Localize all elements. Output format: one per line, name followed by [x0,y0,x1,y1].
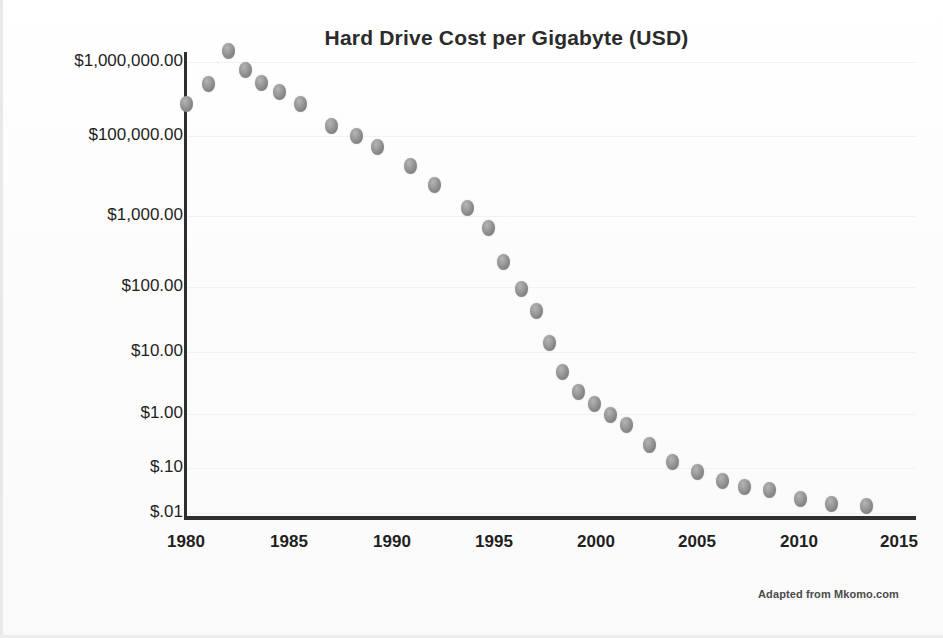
data-point [202,76,215,92]
data-point [825,496,838,512]
attribution-text: Adapted from Mkomo.com [758,588,899,600]
chart-figure: Hard Drive Cost per Gigabyte (USD) $1,00… [0,0,943,638]
data-point [794,491,807,507]
data-point [325,118,338,134]
data-point [273,84,286,100]
data-point [666,454,679,470]
gridline [187,513,916,514]
data-point [691,464,704,480]
data-point [620,417,633,433]
y-tick-label: $10.00 [13,341,183,361]
x-tick-label: 1990 [352,532,432,552]
data-point [543,335,556,351]
gridline [187,414,916,415]
data-point [239,62,252,78]
x-axis-line [184,516,916,520]
gridline [187,216,916,217]
gridline [187,287,916,288]
y-tick-label: $.01 [13,502,183,522]
gridline [187,468,916,469]
data-point [588,396,601,412]
gridline [187,62,916,63]
data-point [255,75,268,91]
data-point [572,384,585,400]
data-point [180,96,193,112]
data-point [350,128,363,144]
data-point [515,281,528,297]
y-tick-label: $.10 [13,457,183,477]
data-point [428,177,441,193]
data-point [556,364,569,380]
plot-area: $1,000,000.00$100,000.00$1,000.00$100.00… [0,0,943,638]
y-tick-label: $100.00 [13,276,183,296]
x-tick-label: 2000 [556,532,636,552]
data-point [763,482,776,498]
data-point [294,96,307,112]
data-point [738,479,751,495]
y-tick-label: $1,000,000.00 [13,51,183,71]
y-axis-line [184,52,187,518]
y-tick-label: $1.00 [13,403,183,423]
data-point [461,200,474,216]
gridline [187,352,916,353]
data-point [643,437,656,453]
data-point [530,303,543,319]
data-point [482,220,495,236]
y-tick-label: $100,000.00 [13,125,183,145]
x-tick-label: 1995 [454,532,534,552]
y-tick-label: $1,000.00 [13,205,183,225]
x-tick-label: 2005 [657,532,737,552]
data-point [222,43,235,59]
data-point [371,139,384,155]
x-tick-label: 1985 [249,532,329,552]
x-tick-label: 2010 [759,532,839,552]
gridline [187,136,916,137]
x-tick-label: 1980 [146,532,226,552]
data-point [497,254,510,270]
data-point [716,473,729,489]
data-point [404,158,417,174]
data-point [604,407,617,423]
data-point [860,498,873,514]
x-tick-label: 2015 [859,532,939,552]
